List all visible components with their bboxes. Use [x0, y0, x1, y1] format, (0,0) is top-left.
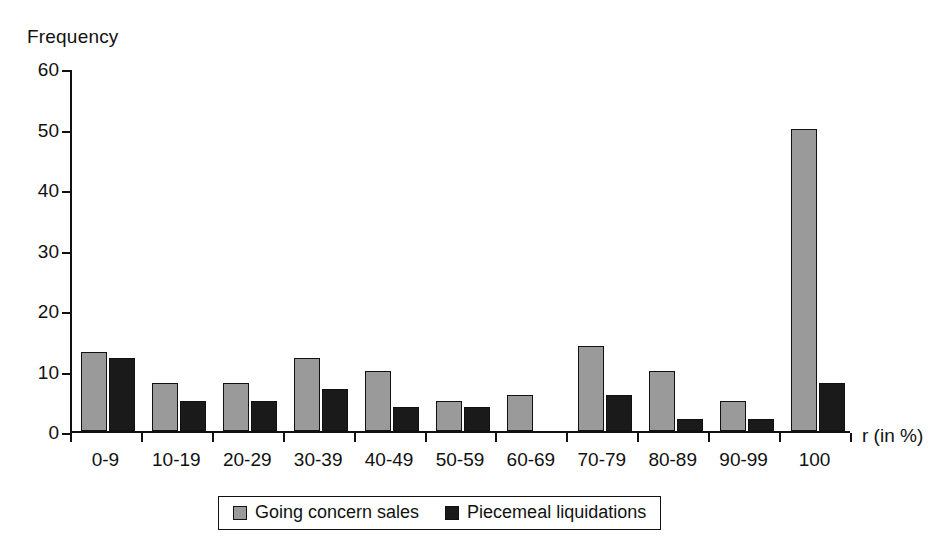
bar-group-70-79	[578, 70, 630, 431]
bar-100-piecemeal-liquidations	[819, 383, 845, 431]
bar-100-going-concern-sales	[791, 129, 817, 432]
bar-30-39-going-concern-sales	[294, 358, 320, 431]
bar-group-90-99	[720, 70, 772, 431]
y-tick-mark	[62, 131, 70, 133]
legend-item-piecemeal-liquidations: Piecemeal liquidations	[445, 502, 646, 523]
y-tick-label: 30	[38, 241, 59, 263]
bars-layer	[72, 70, 850, 431]
y-tick-label: 10	[38, 362, 59, 384]
bar-80-89-going-concern-sales	[649, 371, 675, 432]
bar-90-99-going-concern-sales	[720, 401, 746, 431]
bar-70-79-going-concern-sales	[578, 346, 604, 431]
x-category-label-10-19: 10-19	[141, 449, 212, 471]
x-tick-mark	[70, 433, 72, 442]
y-tick-mark	[62, 433, 70, 435]
x-axis-title: r (in %)	[862, 425, 923, 447]
y-tick-mark	[62, 252, 70, 254]
bar-70-79-piecemeal-liquidations	[606, 395, 632, 431]
x-axis-line	[70, 431, 850, 433]
y-tick-label: 50	[38, 120, 59, 142]
bar-chart: Frequency 0102030405060 0-910-1920-2930-…	[0, 0, 952, 555]
bar-group-10-19	[152, 70, 204, 431]
x-tick-mark	[212, 433, 214, 442]
bar-10-19-going-concern-sales	[152, 383, 178, 431]
y-tick-mark	[62, 312, 70, 314]
bar-group-0-9	[81, 70, 133, 431]
legend-swatch-icon-piecemeal-liquidations	[445, 506, 459, 520]
bar-group-40-49	[365, 70, 417, 431]
x-category-label-40-49: 40-49	[354, 449, 425, 471]
bar-20-29-piecemeal-liquidations	[251, 401, 277, 431]
y-tick-label: 20	[38, 301, 59, 323]
x-tick-mark	[283, 433, 285, 442]
bar-40-49-piecemeal-liquidations	[393, 407, 419, 431]
bar-30-39-piecemeal-liquidations	[322, 389, 348, 431]
bar-10-19-piecemeal-liquidations	[180, 401, 206, 431]
x-category-label-100: 100	[779, 449, 850, 471]
bar-group-50-59	[436, 70, 488, 431]
legend-label-going-concern-sales: Going concern sales	[255, 502, 419, 523]
x-category-label-20-29: 20-29	[212, 449, 283, 471]
y-axis-title: Frequency	[27, 26, 119, 48]
x-tick-mark	[566, 433, 568, 442]
x-category-label-50-59: 50-59	[425, 449, 496, 471]
bar-50-59-piecemeal-liquidations	[464, 407, 490, 431]
legend-item-going-concern-sales: Going concern sales	[233, 502, 419, 523]
plot-area: 0102030405060	[70, 70, 850, 433]
y-tick-label: 60	[38, 59, 59, 81]
bar-80-89-piecemeal-liquidations	[677, 419, 703, 431]
bar-group-80-89	[649, 70, 701, 431]
x-tick-mark	[354, 433, 356, 442]
bar-group-30-39	[294, 70, 346, 431]
legend-swatch-icon-going-concern-sales	[233, 506, 247, 520]
bar-group-20-29	[223, 70, 275, 431]
bar-group-100	[791, 70, 843, 431]
x-tick-mark	[779, 433, 781, 442]
chart-legend: Going concern sales Piecemeal liquidatio…	[218, 496, 661, 530]
x-tick-mark	[425, 433, 427, 442]
y-tick-mark	[62, 373, 70, 375]
x-tick-mark	[850, 433, 852, 442]
y-tick-mark	[62, 191, 70, 193]
x-tick-mark	[637, 433, 639, 442]
bar-40-49-going-concern-sales	[365, 371, 391, 432]
x-category-label-60-69: 60-69	[495, 449, 566, 471]
bar-50-59-going-concern-sales	[436, 401, 462, 431]
x-tick-mark	[495, 433, 497, 442]
legend-label-piecemeal-liquidations: Piecemeal liquidations	[467, 502, 646, 523]
x-category-label-90-99: 90-99	[708, 449, 779, 471]
bar-group-60-69	[507, 70, 559, 431]
x-tick-mark	[141, 433, 143, 442]
bar-60-69-going-concern-sales	[507, 395, 533, 431]
x-tick-mark	[708, 433, 710, 442]
bar-90-99-piecemeal-liquidations	[748, 419, 774, 431]
x-category-label-30-39: 30-39	[283, 449, 354, 471]
bar-20-29-going-concern-sales	[223, 383, 249, 431]
x-category-label-80-89: 80-89	[637, 449, 708, 471]
bar-0-9-going-concern-sales	[81, 352, 107, 431]
x-category-label-70-79: 70-79	[566, 449, 637, 471]
y-tick-mark	[62, 70, 70, 72]
x-category-label-0-9: 0-9	[70, 449, 141, 471]
y-tick-label: 0	[48, 422, 59, 444]
y-tick-label: 40	[38, 180, 59, 202]
bar-0-9-piecemeal-liquidations	[109, 358, 135, 431]
